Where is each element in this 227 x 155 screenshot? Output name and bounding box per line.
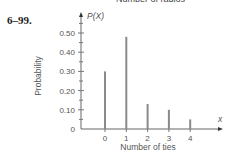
x-tick-label: 2 xyxy=(145,134,150,143)
y-axis-label: Probability xyxy=(33,55,43,95)
y-axis-arrow-icon xyxy=(79,12,83,17)
probability-bar xyxy=(147,104,149,129)
x-tick-label: 0 xyxy=(103,134,108,143)
x-axis-arrow-icon xyxy=(218,127,223,131)
y-tick-label: 0.40 xyxy=(59,48,75,57)
probability-bar xyxy=(168,110,170,129)
x-axis-label: Number of ties xyxy=(120,142,175,152)
probability-bar xyxy=(104,71,106,129)
probability-bar xyxy=(125,37,127,129)
y-tick-label: 0 xyxy=(71,125,76,134)
y-tick-label: 0.30 xyxy=(59,67,75,76)
bars xyxy=(104,37,191,129)
x-axis-symbol: x xyxy=(217,114,223,124)
x-tick-label: 1 xyxy=(124,134,129,143)
y-axis-symbol: P(X) xyxy=(87,11,104,21)
x-tick-label: 4 xyxy=(188,134,193,143)
x-tick-label: 3 xyxy=(167,134,172,143)
probability-bar xyxy=(189,119,191,129)
probability-distribution-chart: P(X) x Probability Number of ties 00.100… xyxy=(0,0,227,155)
y-tick-label: 0.50 xyxy=(59,29,75,38)
y-tick-label: 0.20 xyxy=(59,87,75,96)
y-tick-label: 0.10 xyxy=(59,106,75,115)
y-ticks: 00.100.200.300.400.50 xyxy=(59,23,84,134)
